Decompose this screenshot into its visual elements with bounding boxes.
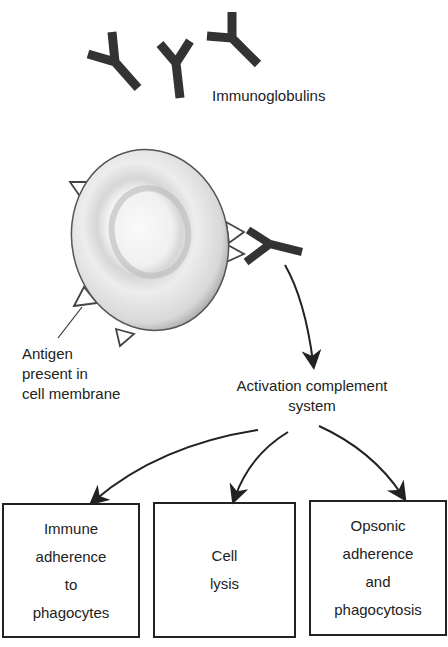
arrow-to-complement [285,265,313,362]
cell [55,135,245,345]
arrow-to-opsonic-adherence [319,426,402,495]
antigen-label: Antigen present in cell membrane [22,344,120,404]
bound-antibody-icon [246,230,302,262]
outcome-box-cell-lysis: Cell lysis [153,502,296,638]
complement-system-label: Activation complement system [196,376,428,416]
arrow-to-immune-adherence [95,430,258,500]
antigen-pointer [58,307,82,338]
antibody-icon-2 [160,41,190,98]
immunoglobulins-label: Immunoglobulins [212,86,325,106]
antibody-icon-3 [207,12,258,64]
outcome-box-immune-adherence: Immune adherence to phagocytes [2,503,140,638]
arrow-to-cell-lysis [235,432,288,497]
outcome-box-opsonic-adherence: Opsonic adherence and phagocytosis [309,500,447,636]
antibody-icon-1 [88,32,138,88]
